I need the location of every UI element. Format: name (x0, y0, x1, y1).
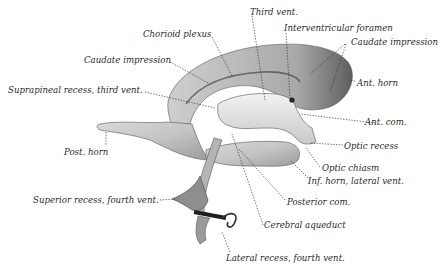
label-third-vent: Third vent. (250, 7, 298, 17)
label-interventricular-foramen: Interventricular foramen (283, 23, 393, 33)
label-caudate-impression-right: Caudate impression (351, 37, 438, 47)
label-chorioid-plexus: Chorioid plexus (143, 29, 212, 39)
fourth-ventricle-tail (196, 216, 210, 244)
foramen-spot (289, 97, 294, 102)
label-inf-horn: Inf. horn, lateral vent. (307, 176, 404, 186)
lateral-recess-curl (222, 214, 236, 227)
label-optic-chiasm: Optic chiasm (322, 163, 379, 173)
ventricles-diagram: Chorioid plexus Third vent. Interventric… (0, 0, 448, 269)
label-optic-recess: Optic recess (344, 141, 399, 151)
label-caudate-impression-left: Caudate impression (84, 55, 171, 65)
label-superior-recess: Superior recess, fourth vent. (33, 195, 159, 205)
label-suprapineal-recess: Suprapineal recess, third vent. (8, 85, 143, 95)
label-post-horn: Post. horn (63, 147, 108, 157)
posterior-horn (97, 122, 210, 160)
label-lateral-recess: Lateral recess, fourth vent. (225, 253, 345, 263)
label-posterior-com: Posterior com. (286, 197, 350, 207)
label-cerebral-aqueduct: Cerebral aqueduct (264, 220, 346, 230)
label-ant-com: Ant. com. (364, 117, 407, 127)
label-ant-horn: Ant. horn (356, 78, 398, 88)
